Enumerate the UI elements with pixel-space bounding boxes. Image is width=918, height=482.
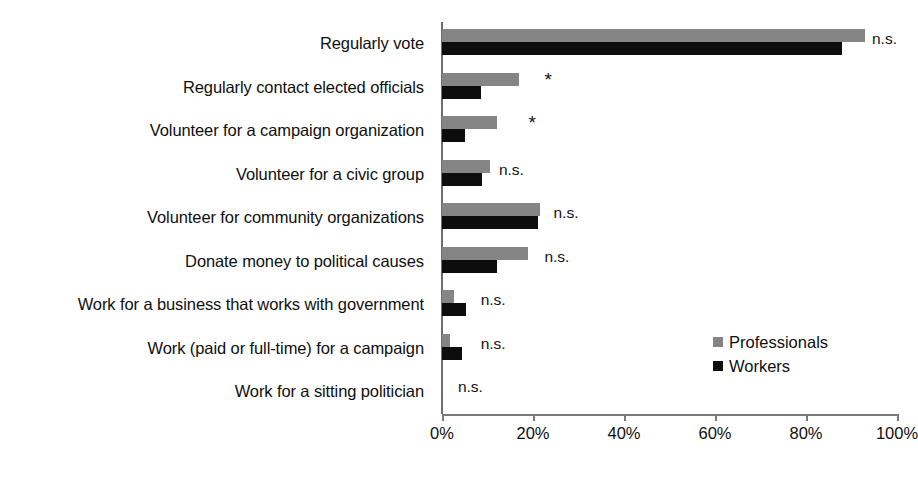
bar-group: * <box>442 66 897 110</box>
bar-group: n.s. <box>442 370 897 414</box>
significance-annotation: * <box>544 70 551 90</box>
bar-workers <box>442 347 462 360</box>
x-tick-mark <box>806 414 808 421</box>
category-label: Regularly contact elected officials <box>0 66 432 110</box>
bar-group: n.s. <box>442 153 897 197</box>
bar-group: * <box>442 109 897 153</box>
x-tick-mark <box>442 414 444 421</box>
category-axis-labels: Regularly voteRegularly contact elected … <box>0 22 432 414</box>
x-axis-line <box>442 414 898 416</box>
category-label: Regularly vote <box>0 22 432 66</box>
category-label: Work for a sitting politician <box>0 370 432 414</box>
x-tick-label: 40% <box>607 424 640 443</box>
legend-swatch-icon <box>713 337 723 347</box>
bar-group: n.s. <box>442 327 897 371</box>
category-label: Volunteer for a civic group <box>0 153 432 197</box>
category-label: Volunteer for a campaign organization <box>0 109 432 153</box>
x-tick-label: 80% <box>789 424 822 443</box>
legend-item: Workers <box>713 354 828 378</box>
x-tick-mark <box>897 414 899 421</box>
chart-legend: ProfessionalsWorkers <box>713 330 828 378</box>
x-tick-mark <box>715 414 717 421</box>
significance-annotation: n.s. <box>553 203 578 223</box>
bar-rows: n.s.**n.s.n.s.n.s.n.s.n.s.n.s. <box>442 22 897 414</box>
significance-annotation: * <box>528 113 535 133</box>
legend-swatch-icon <box>713 361 723 371</box>
bar-professionals <box>442 290 454 303</box>
bar-group: n.s. <box>442 240 897 284</box>
x-tick-label: 0% <box>430 424 454 443</box>
significance-annotation: n.s. <box>544 247 569 267</box>
bar-professionals <box>442 247 528 260</box>
bar-workers <box>442 303 466 316</box>
significance-annotation: n.s. <box>481 334 506 354</box>
category-label: Donate money to political causes <box>0 240 432 284</box>
plot-area: n.s.**n.s.n.s.n.s.n.s.n.s.n.s. <box>442 22 897 414</box>
bar-professionals <box>442 73 519 86</box>
bar-professionals <box>442 116 497 129</box>
bar-group: n.s. <box>442 283 897 327</box>
category-label: Work (paid or full-time) for a campaign <box>0 327 432 371</box>
legend-label: Workers <box>729 357 790 376</box>
x-tick-label: 60% <box>698 424 731 443</box>
bar-professionals <box>442 334 450 347</box>
bar-professionals <box>442 160 490 173</box>
bar-workers <box>442 173 482 186</box>
legend-item: Professionals <box>713 330 828 354</box>
significance-annotation: n.s. <box>872 29 897 49</box>
bar-workers <box>442 42 842 55</box>
bar-workers <box>442 260 497 273</box>
category-label: Work for a business that works with gove… <box>0 283 432 327</box>
x-tick-label: 20% <box>516 424 549 443</box>
bar-workers <box>442 129 465 142</box>
significance-annotation: n.s. <box>499 160 524 180</box>
significance-annotation: n.s. <box>458 377 483 397</box>
bar-professionals <box>442 203 540 216</box>
x-tick-label: 100% <box>876 424 918 443</box>
bar-group: n.s. <box>442 196 897 240</box>
bar-workers <box>442 86 481 99</box>
x-tick-mark <box>624 414 626 421</box>
x-tick-mark <box>533 414 535 421</box>
bar-group: n.s. <box>442 22 897 66</box>
legend-label: Professionals <box>729 333 828 352</box>
bar-professionals <box>442 29 865 42</box>
significance-annotation: n.s. <box>481 290 506 310</box>
bar-workers <box>442 216 538 229</box>
category-label: Volunteer for community organizations <box>0 196 432 240</box>
